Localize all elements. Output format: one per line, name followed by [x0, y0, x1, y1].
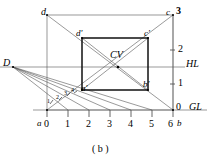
label-HL: HL	[186, 59, 199, 69]
measure-label-4: 4	[71, 87, 74, 93]
fan-line-2	[13, 67, 89, 110]
point-a	[46, 109, 48, 111]
fan-line-1	[13, 67, 68, 110]
label-b-prime: b'	[143, 80, 149, 89]
label-c-prime: c'	[144, 29, 150, 38]
point-b-prime	[147, 89, 149, 91]
point-c	[172, 14, 174, 16]
label-c: c	[166, 8, 170, 17]
label-GL: GL	[189, 102, 202, 112]
measure-tick-4	[74, 91, 77, 93]
point-b	[172, 109, 174, 111]
label-a-prime: a'	[81, 84, 87, 93]
label-CV: CV	[110, 50, 123, 60]
bottom-tick-label-5: 5	[149, 119, 154, 129]
bottom-tick-label-6: 6	[168, 119, 173, 129]
right-tick-label-1: 1	[178, 78, 183, 88]
measure-label-2: 2	[56, 94, 59, 100]
point-d	[46, 14, 48, 16]
bottom-tick-label-0: 0	[44, 119, 49, 129]
bottom-tick-label-4: 4	[128, 119, 133, 129]
label-D: D	[3, 58, 10, 68]
right-tick-label-0: 0	[176, 102, 181, 112]
label-d: d	[41, 7, 46, 17]
right-tick-label-3: 3	[176, 6, 181, 16]
label-d-prime: d'	[76, 29, 82, 38]
bottom-end-label-b: b	[177, 119, 182, 128]
measure-label-1: 1	[47, 98, 50, 104]
point-D	[12, 66, 14, 68]
bottom-tick-label-2: 2	[86, 119, 91, 129]
measure-label-3: 3	[64, 90, 67, 96]
bottom-end-label-a: a	[37, 119, 42, 128]
right-tick-label-2: 2	[178, 44, 183, 54]
bottom-tick-label-1: 1	[65, 119, 70, 129]
figure-caption: ( b )	[92, 144, 109, 154]
measure-tick-1	[50, 100, 53, 104]
bottom-tick-label-3: 3	[107, 119, 112, 129]
point-CV	[117, 66, 120, 69]
